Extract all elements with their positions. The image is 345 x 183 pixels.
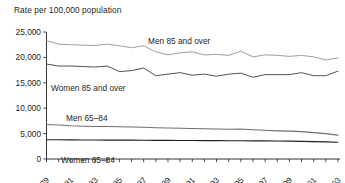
x-tick-label: 1987 [129,175,148,183]
series-line-men-65-84 [47,124,339,135]
chart-container: Rate per 100,000 population 05,00010,000… [0,0,345,183]
x-tick-label: 1997 [251,175,270,183]
series-label-women-65-84: Women 65–84 [61,155,115,165]
series-line-women-65-84 [47,140,339,143]
x-tick-label: 2001 [299,175,318,183]
x-axis-tick-labels: 1979198119831985198719891991199319951997… [32,175,343,183]
series-label-men-85-and-over: Men 85 and over [148,36,211,46]
x-tick-label: 1989 [154,175,173,183]
series-label-women-85-and-over: Women 85 and over [51,83,126,93]
x-tick-label: 1981 [56,175,75,183]
y-tick-label: 0 [36,154,41,164]
y-axis-tick-labels: 05,00010,00015,00020,00025,000 [16,27,42,164]
series-label-men-65-84: Men 65–84 [66,113,108,123]
y-tick-label: 15,000 [16,78,42,88]
x-tick-label: 1999 [275,175,294,183]
y-tick-label: 20,000 [16,52,42,62]
x-tick-label: 1993 [202,175,221,183]
x-tick-label: 1995 [226,175,245,183]
x-tick-label: 1983 [81,175,100,183]
series-line-women-85-and-over [47,64,339,77]
x-tick-label: 1979 [32,175,51,183]
y-tick-label: 5,000 [20,129,41,139]
y-tick-label: 25,000 [16,27,42,37]
x-tick-label: 2003 [324,175,343,183]
y-tick-label: 10,000 [16,103,42,113]
x-tick-label: 1985 [105,175,124,183]
x-tick-label: 1991 [178,175,197,183]
line-chart-plot: 05,00010,00015,00020,00025,000 197919811… [0,0,345,183]
